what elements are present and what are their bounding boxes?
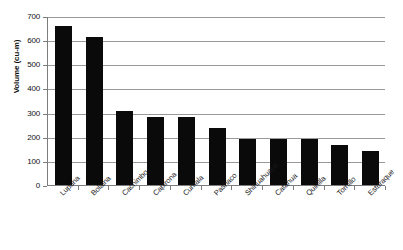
x-axis-category-label: Estoraque: [366, 167, 396, 197]
x-axis-category-label: Quinilla: [304, 174, 327, 197]
x-axis-category-label: Lupuna: [58, 174, 82, 198]
x-axis-category-labels: LupunaBolainaCachimboCapironaCumalaPasha…: [0, 0, 403, 250]
x-axis-category-label: Capirona: [151, 170, 178, 197]
x-axis-category-label: Cumala: [181, 173, 205, 197]
x-axis-category-label: Tornillo: [335, 175, 358, 198]
x-axis-category-label: Bolaina: [89, 174, 113, 198]
x-axis-category-label: Pashaco: [212, 171, 239, 198]
x-axis-category-label: Catahua: [273, 171, 299, 197]
bar-chart: Volume (cu-m) 7006005004003002001000 Lup…: [0, 0, 403, 250]
x-axis-category-label: Cachimbo: [120, 168, 150, 198]
